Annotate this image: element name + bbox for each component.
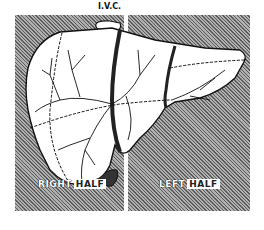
left-half-label-word1: LEFT (157, 179, 187, 189)
ivc-label: I.V.C. (97, 2, 122, 11)
left-half-label-word2: HALF (187, 179, 219, 189)
right-half-label-word2: HALF (74, 179, 106, 189)
liver-illustration (0, 0, 264, 230)
right-half-label: RIGHTHALF (36, 179, 106, 189)
right-half-label-word1: RIGHT (36, 179, 74, 189)
liver-diagram: I.V.C. RIGHTHALF LEFTHALF (0, 0, 264, 230)
left-half-label: LEFTHALF (157, 179, 220, 189)
